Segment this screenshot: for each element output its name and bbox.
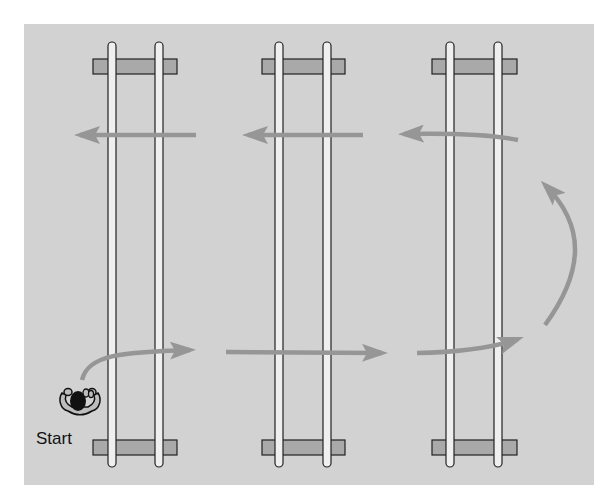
track-crossing-diagram [0,0,616,503]
rail-right [494,42,502,467]
rail-left [446,42,454,467]
person-icon [60,389,100,415]
arrow-bottom-2 [226,352,382,353]
rail-right [155,42,163,467]
arrow-bottom-1 [82,350,190,380]
rail-left [108,42,116,467]
sleeper-top [93,59,177,74]
arrow-arc-up [545,185,575,325]
sleeper-top [432,59,517,74]
sleeper-bottom [432,440,517,455]
rail-right [323,42,331,467]
track-2 [262,42,345,467]
arrow-bottom-3 [417,339,518,353]
track-1 [93,42,177,467]
start-label: Start [36,429,72,449]
rail-left [275,42,283,467]
track-3 [432,42,517,467]
sleeper-bottom [93,440,177,455]
